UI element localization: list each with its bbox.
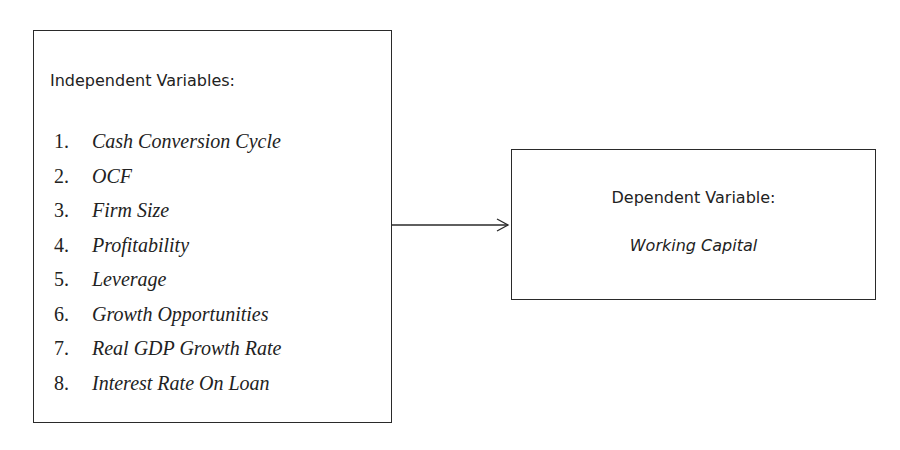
list-item: 5.Leverage — [54, 262, 281, 297]
dependent-variable-value: Working Capital — [512, 236, 875, 255]
independent-variables-heading: Independent Variables: — [50, 71, 235, 90]
arrow-right-icon — [390, 215, 512, 235]
dependent-variable-heading: Dependent Variable: — [512, 188, 875, 207]
list-item: 3.Firm Size — [54, 193, 281, 228]
list-item: 6.Growth Opportunities — [54, 297, 281, 332]
list-item: 4.Profitability — [54, 228, 281, 263]
list-item: 8.Interest Rate On Loan — [54, 366, 281, 401]
independent-variables-box: Independent Variables: 1.Cash Conversion… — [33, 30, 392, 423]
list-item: 1.Cash Conversion Cycle — [54, 124, 281, 159]
dependent-variable-box: Dependent Variable: Working Capital — [511, 149, 876, 300]
independent-variables-list: 1.Cash Conversion Cycle 2.OCF 3.Firm Siz… — [54, 124, 281, 400]
list-item: 2.OCF — [54, 159, 281, 194]
list-item: 7.Real GDP Growth Rate — [54, 331, 281, 366]
